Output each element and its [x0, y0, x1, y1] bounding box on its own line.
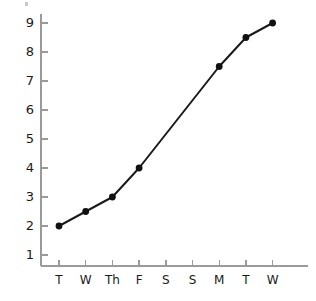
x-tick-label: W	[80, 273, 92, 287]
y-tick-label: 3	[26, 189, 34, 204]
data-point-marker	[82, 208, 89, 215]
y-tick-label: 8	[26, 44, 34, 59]
data-point-marker	[243, 34, 250, 41]
y-tick-label: 9	[26, 15, 34, 30]
y-axis-tick-labels: 123456789	[26, 15, 34, 262]
x-axis-tick-labels: TWThFSSMTW	[54, 273, 278, 287]
x-tick-label: F	[136, 273, 143, 287]
line-chart: 123456789 TWThFSSMTW	[0, 0, 316, 301]
chart-canvas: 123456789 TWThFSSMTW	[0, 0, 316, 301]
data-point-marker	[269, 20, 276, 27]
x-tick-label: W	[267, 273, 279, 287]
x-tick-label: T	[241, 273, 250, 287]
x-tick-label: M	[214, 273, 224, 287]
y-axis-ticks	[41, 23, 48, 255]
data-series-markers	[56, 20, 276, 230]
x-axis-ticks	[59, 260, 273, 266]
y-tick-label: 7	[26, 73, 34, 88]
x-tick-label: S	[189, 273, 197, 287]
y-tick-label: 6	[26, 102, 34, 117]
data-point-marker	[109, 194, 116, 201]
x-tick-label: S	[162, 273, 170, 287]
x-tick-label: T	[54, 273, 63, 287]
data-point-marker	[216, 63, 223, 70]
y-tick-label: 4	[26, 160, 34, 175]
y-tick-label: 2	[26, 218, 34, 233]
data-series-line	[59, 23, 273, 226]
y-tick-label: 1	[26, 247, 34, 262]
data-point-marker	[136, 165, 143, 172]
x-tick-label: Th	[104, 273, 120, 287]
data-point-marker	[56, 223, 63, 230]
y-tick-label: 5	[26, 131, 34, 146]
